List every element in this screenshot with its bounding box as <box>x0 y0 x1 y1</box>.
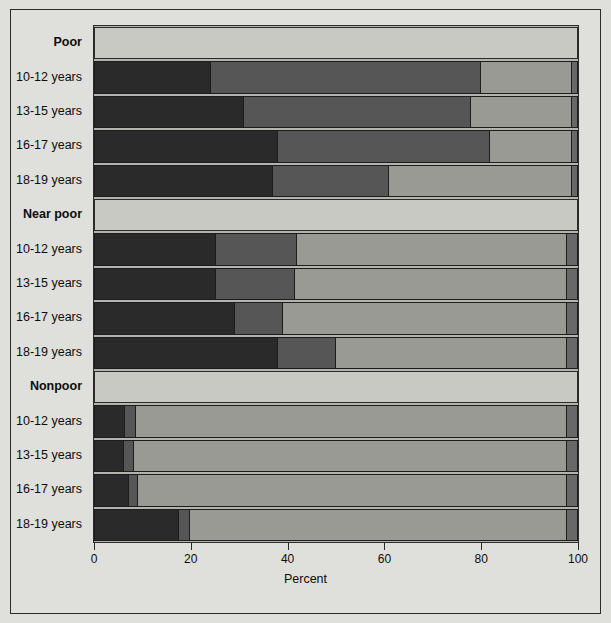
bar-row <box>94 130 578 162</box>
bar-segment-other <box>567 338 577 368</box>
bar-segment-medicaid <box>179 510 190 540</box>
y-axis-label: 10-12 years <box>16 414 82 428</box>
bar-segment-other <box>572 97 577 127</box>
bar-segment-uninsured <box>95 303 235 333</box>
stacked-bar <box>94 302 578 334</box>
bar-segment-other <box>567 475 577 505</box>
x-tick-label: 20 <box>184 552 197 566</box>
x-tick-mark <box>384 543 385 550</box>
bar-segment-other <box>567 234 577 264</box>
y-axis-label: 16-17 years <box>16 482 82 496</box>
bar-segment-private <box>295 269 567 299</box>
y-axis-label: 13-15 years <box>16 276 82 290</box>
plot-area <box>93 25 579 543</box>
x-tick-label: 80 <box>475 552 488 566</box>
y-axis-label: 10-12 years <box>16 242 82 256</box>
y-axis-label: 18-19 years <box>16 173 82 187</box>
bar-segment-uninsured <box>95 166 273 196</box>
bar-segment-medicaid <box>216 269 296 299</box>
bar-segment-other <box>572 166 577 196</box>
x-tick-label: 40 <box>281 552 294 566</box>
bar-segment-uninsured <box>95 338 278 368</box>
bar-row <box>94 61 578 93</box>
x-axis-title: Percent <box>0 572 611 586</box>
bar-segment-other <box>572 131 577 161</box>
bar-row <box>94 405 578 437</box>
bar-segment-medicaid <box>124 441 134 471</box>
y-axis-label: 16-17 years <box>16 310 82 324</box>
stacked-bar <box>94 337 578 369</box>
bar-segment-medicaid <box>129 475 139 505</box>
bar-segment-uninsured <box>95 269 216 299</box>
bar-segment-medicaid <box>125 406 136 436</box>
x-tick-mark <box>481 543 482 550</box>
y-group-label-near-poor: Near poor <box>23 207 82 221</box>
bar-segment-other <box>567 303 577 333</box>
y-axis-label: 10-12 years <box>16 70 82 84</box>
bar-row <box>94 165 578 197</box>
group-band-near-poor <box>94 199 578 231</box>
bar-segment-uninsured <box>95 510 179 540</box>
bar-segment-private <box>471 97 572 127</box>
x-axis <box>93 543 579 552</box>
bar-segment-medicaid <box>216 234 298 264</box>
bar-segment-other <box>567 441 577 471</box>
bar-segment-medicaid <box>211 62 481 92</box>
bar-segment-private <box>297 234 567 264</box>
stacked-bar <box>94 165 578 197</box>
x-tick-mark <box>191 543 192 550</box>
bar-segment-uninsured <box>95 475 129 505</box>
bar-segment-uninsured <box>95 406 125 436</box>
stacked-bar <box>94 509 578 541</box>
bar-segment-private <box>138 475 567 505</box>
x-tick-label: 60 <box>378 552 391 566</box>
bar-segment-uninsured <box>95 131 278 161</box>
x-tick-mark <box>288 543 289 550</box>
stacked-bar <box>94 233 578 265</box>
y-axis-label: 18-19 years <box>16 345 82 359</box>
bar-segment-other <box>572 62 577 92</box>
bar-row <box>94 509 578 541</box>
bar-segment-medicaid <box>273 166 389 196</box>
bar-segment-other <box>567 510 577 540</box>
bar-segment-medicaid <box>235 303 283 333</box>
group-band-poor <box>94 27 578 59</box>
stacked-bar <box>94 440 578 472</box>
bar-segment-other <box>567 269 577 299</box>
x-tick-mark <box>578 543 579 550</box>
bar-segment-private <box>283 303 567 333</box>
bar-segment-private <box>389 166 572 196</box>
bar-row <box>94 302 578 334</box>
stacked-bar <box>94 268 578 300</box>
y-group-label-nonpoor: Nonpoor <box>30 379 82 393</box>
y-axis-label: 18-19 years <box>16 517 82 531</box>
group-band-nonpoor <box>94 371 578 403</box>
y-group-label-poor: Poor <box>54 35 82 49</box>
bar-segment-private <box>336 338 567 368</box>
bar-segment-medicaid <box>278 131 490 161</box>
stacked-bar <box>94 61 578 93</box>
y-axis-label: 16-17 years <box>16 138 82 152</box>
bar-segment-uninsured <box>95 234 216 264</box>
bar-segment-private <box>136 406 567 436</box>
bar-segment-private <box>190 510 567 540</box>
bar-segment-private <box>490 131 572 161</box>
stacked-bar <box>94 474 578 506</box>
bar-segment-uninsured <box>95 62 211 92</box>
bar-row <box>94 233 578 265</box>
bar-segment-private <box>481 62 573 92</box>
stacked-bar <box>94 405 578 437</box>
stacked-bar <box>94 96 578 128</box>
y-axis-labels: Poor10-12 years13-15 years16-17 years18-… <box>0 25 88 543</box>
bar-segment-uninsured <box>95 441 124 471</box>
stacked-bar <box>94 130 578 162</box>
x-tick-mark <box>94 543 95 550</box>
chart-page: UninsuredMedicaidPrivateOther Poor10-12 … <box>0 0 611 623</box>
bar-rows <box>94 26 578 542</box>
bar-row <box>94 474 578 506</box>
bar-segment-medicaid <box>244 97 471 127</box>
y-axis-label: 13-15 years <box>16 448 82 462</box>
y-axis-label: 13-15 years <box>16 104 82 118</box>
bar-segment-private <box>134 441 568 471</box>
x-tick-label: 100 <box>568 552 588 566</box>
